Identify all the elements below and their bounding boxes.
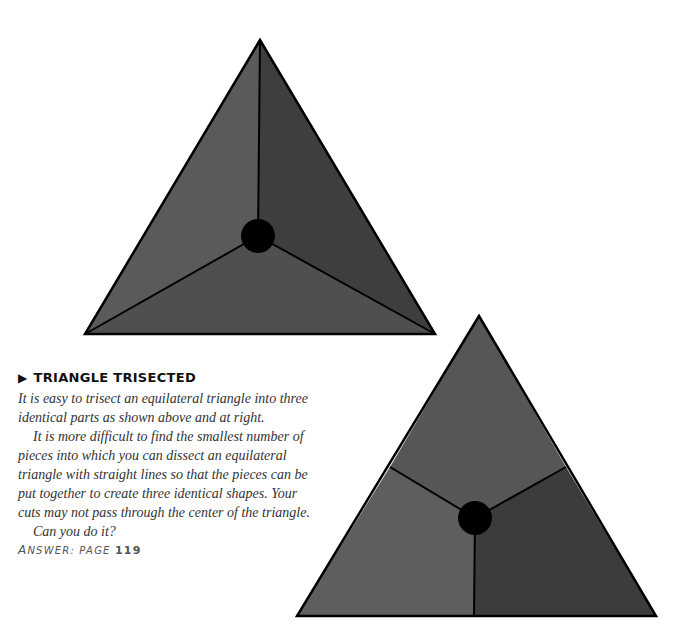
answer-reference: ANSWER: PAGE 119 — [18, 543, 318, 557]
top-trisected-triangle — [85, 40, 435, 334]
bottom-trisected-triangle — [297, 316, 656, 616]
puzzle-paragraph-1: It is easy to trisect an equilateral tri… — [18, 389, 318, 427]
puzzle-paragraph-3: Can you do it? — [18, 522, 318, 541]
answer-label-initial: A — [18, 543, 27, 557]
puzzle-title: TRIANGLE TRISECTED — [34, 370, 196, 385]
puzzle-text-block: ▶TRIANGLE TRISECTED It is easy to trisec… — [18, 370, 318, 557]
bottom-triangle-center-dot — [458, 501, 492, 535]
answer-page-number: 119 — [115, 544, 142, 557]
puzzle-heading: ▶TRIANGLE TRISECTED — [18, 370, 318, 385]
triangle-bullet-icon: ▶ — [18, 371, 28, 385]
puzzle-paragraph-2: It is more difficult to find the smalles… — [18, 427, 318, 522]
answer-label: NSWER: PAGE — [27, 545, 110, 556]
top-triangle-center-dot — [241, 219, 275, 253]
